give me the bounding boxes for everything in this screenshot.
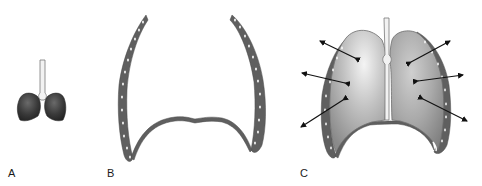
panel-b-chest-wall bbox=[118, 15, 265, 162]
left-lung-icon bbox=[17, 93, 40, 121]
diaphragm-icon bbox=[131, 117, 252, 160]
right-lung-icon bbox=[45, 93, 66, 121]
trachea-icon bbox=[39, 60, 47, 100]
diagram-canvas bbox=[0, 0, 482, 186]
respiratory-diagram: A B C bbox=[0, 0, 482, 186]
panel-label-b: B bbox=[107, 168, 114, 179]
panel-label-a: A bbox=[8, 168, 15, 179]
right-chest-wall-icon bbox=[230, 15, 266, 152]
panel-label-c: C bbox=[300, 168, 308, 179]
panel-c-expanded-lungs bbox=[301, 18, 467, 158]
panel-a-lungs bbox=[17, 60, 65, 121]
